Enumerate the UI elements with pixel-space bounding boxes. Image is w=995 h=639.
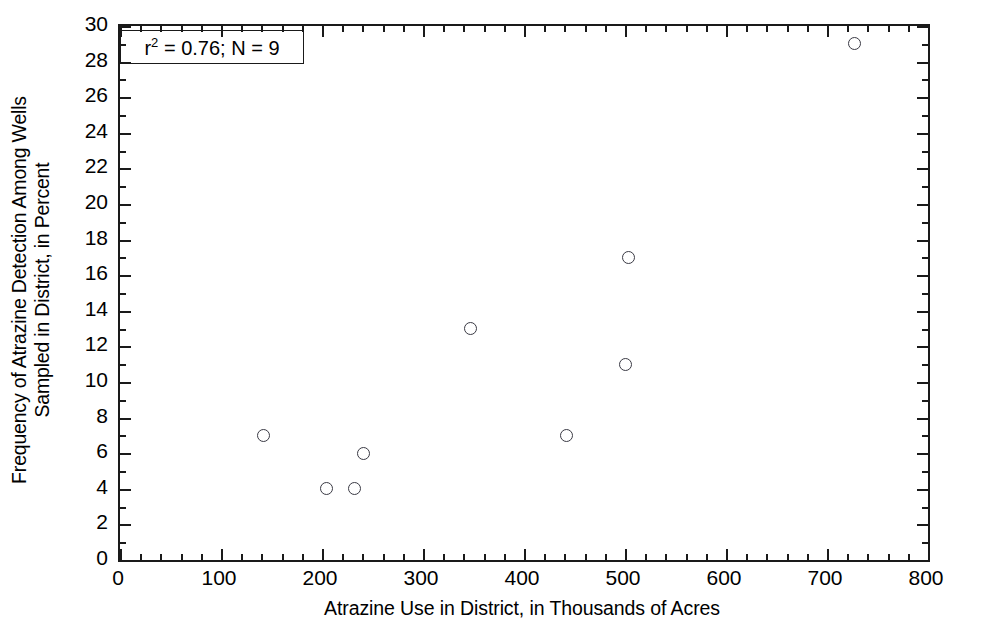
x-axis-tick-280 [403, 554, 405, 560]
y-axis-tick-label-18: 18 [64, 226, 108, 250]
y-axis-tick-26 [120, 97, 131, 99]
x-axis-tick-top-240 [362, 26, 364, 32]
x-axis-tick-labels: 0100200300400500600700800 [118, 566, 926, 596]
y-axis-title-line-2: Sampled in District, in Percent [31, 163, 54, 418]
y-axis-tick-labels: 024681012141618202224262830 [56, 24, 108, 558]
y-axis-tick-right-30 [917, 26, 928, 28]
x-axis-tick-620 [746, 554, 748, 560]
y-axis-tick-6 [120, 453, 131, 455]
y-axis-tick-right-27 [922, 79, 928, 81]
x-axis-tick-top-440 [564, 26, 566, 32]
y-axis-tick-right-4 [917, 489, 928, 491]
y-axis-tick-12 [120, 346, 131, 348]
x-axis-tick-400 [524, 549, 526, 560]
x-axis-tick-label-0: 0 [73, 566, 163, 590]
x-axis-tick-top-640 [766, 26, 768, 32]
y-axis-tick-right-6 [917, 453, 928, 455]
x-axis-tick-top-360 [484, 26, 486, 32]
x-axis-tick-top-800 [928, 26, 930, 37]
x-axis-tick-top-40 [160, 26, 162, 32]
x-axis-tick-100 [221, 549, 223, 560]
y-axis-tick-right-21 [922, 186, 928, 188]
y-axis-tick-0 [120, 560, 131, 562]
statistics-annotation-box: r2 = 0.76; N = 9 [120, 30, 304, 64]
y-axis-tick-15 [120, 293, 126, 295]
x-axis-tick-600 [726, 549, 728, 560]
x-axis-tick-720 [847, 554, 849, 560]
y-axis-tick-right-17 [922, 257, 928, 259]
x-axis-tick-540 [665, 554, 667, 560]
x-axis-tick-60 [181, 554, 183, 560]
y-axis-tick-17 [120, 257, 126, 259]
y-axis-tick-label-12: 12 [64, 332, 108, 356]
x-axis-tick-800 [928, 549, 930, 560]
x-axis-tick-top-200 [322, 26, 324, 37]
y-axis-tick-28 [120, 62, 131, 64]
x-axis-tick-420 [544, 554, 546, 560]
y-axis-tick-right-2 [917, 524, 928, 526]
data-point [848, 37, 861, 50]
y-axis-tick-21 [120, 186, 126, 188]
x-axis-tick-top-380 [504, 26, 506, 32]
x-axis-tick-label-700: 700 [780, 566, 870, 590]
data-point [357, 447, 370, 460]
x-axis-tick-top-600 [726, 26, 728, 37]
plot-area: r2 = 0.76; N = 9 [118, 24, 930, 562]
x-axis-tick-top-420 [544, 26, 546, 32]
y-axis-tick-right-22 [917, 168, 928, 170]
y-axis-tick-label-2: 2 [64, 510, 108, 534]
data-point [320, 482, 333, 495]
data-point [622, 251, 635, 264]
y-axis-tick-25 [120, 115, 126, 117]
y-axis-tick-right-19 [922, 222, 928, 224]
x-axis-tick-520 [645, 554, 647, 560]
y-axis-tick-right-18 [917, 240, 928, 242]
x-axis-tick-440 [564, 554, 566, 560]
y-axis-tick-right-7 [922, 435, 928, 437]
y-axis-tick-11 [120, 364, 126, 366]
x-axis-tick-top-700 [827, 26, 829, 37]
x-axis-tick-160 [282, 554, 284, 560]
x-axis-tick-top-260 [383, 26, 385, 32]
x-axis-tick-460 [585, 554, 587, 560]
y-axis-tick-label-30: 30 [64, 12, 108, 36]
x-axis-tick-top-540 [665, 26, 667, 32]
x-axis-tick-300 [423, 549, 425, 560]
y-axis-tick-right-26 [917, 97, 928, 99]
y-axis-tick-23 [120, 151, 126, 153]
y-axis-tick-right-23 [922, 151, 928, 153]
x-axis-tick-380 [504, 554, 506, 560]
x-axis-tick-740 [867, 554, 869, 560]
x-axis-tick-top-760 [888, 26, 890, 32]
x-axis-tick-260 [383, 554, 385, 560]
x-axis-tick-label-800: 800 [881, 566, 971, 590]
data-point [257, 429, 270, 442]
x-axis-tick-500 [625, 549, 627, 560]
x-axis-tick-580 [706, 554, 708, 560]
x-axis-tick-top-80 [201, 26, 203, 32]
x-axis-tick-label-200: 200 [275, 566, 365, 590]
x-axis-tick-top-320 [443, 26, 445, 32]
x-axis-tick-80 [201, 554, 203, 560]
y-axis-tick-13 [120, 329, 126, 331]
y-axis-tick-label-16: 16 [64, 261, 108, 285]
y-axis-tick-right-25 [922, 115, 928, 117]
y-axis-tick-label-8: 8 [64, 404, 108, 428]
statistics-annotation-text: r2 = 0.76; N = 9 [144, 35, 279, 60]
x-axis-tick-180 [302, 554, 304, 560]
y-axis-tick-label-22: 22 [64, 154, 108, 178]
y-axis-tick-10 [120, 382, 131, 384]
y-axis-tick-16 [120, 275, 131, 277]
x-axis-tick-label-600: 600 [679, 566, 769, 590]
x-axis-tick-top-520 [645, 26, 647, 32]
x-axis-tick-top-20 [140, 26, 142, 32]
scatter-plot-figure: Frequency of Atrazine Detection Among We… [0, 0, 995, 639]
y-axis-tick-label-6: 6 [64, 439, 108, 463]
x-axis-tick-140 [261, 554, 263, 560]
x-axis-tick-200 [322, 549, 324, 560]
x-axis-tick-top-180 [302, 26, 304, 32]
y-axis-tick-22 [120, 168, 131, 170]
y-axis-tick-right-11 [922, 364, 928, 366]
x-axis-tick-top-160 [282, 26, 284, 32]
y-axis-tick-right-0 [917, 560, 928, 562]
